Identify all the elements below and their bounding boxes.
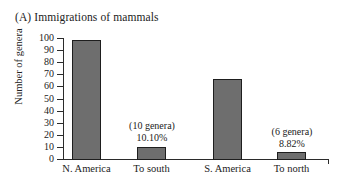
x-axis-category-label: S. America [196,163,259,174]
y-axis-tick-label: 40 [14,106,54,116]
y-axis-tick-mark [57,135,63,136]
y-axis-tick-label: 50 [14,94,54,104]
y-axis-tick-mark [57,74,63,75]
annotation-genera-count: (6 genera) [253,126,331,138]
y-axis-tick-label: 0 [14,154,54,164]
x-axis-category-label: To north [261,163,322,174]
annotation-genera-count: (10 genera) [111,120,193,132]
bar-n-america [72,40,101,160]
y-axis-tick-mark [57,38,63,39]
y-axis-tick-label: 10 [14,142,54,152]
y-axis-tick-label: 70 [14,69,54,79]
bar-to-north [277,152,306,160]
y-axis-line [63,38,64,160]
figure-panel-a: (A) Immigrations of mammals Number of ge… [0,0,351,186]
annotation-percent: 8.82% [253,138,331,150]
bar-to-south [137,147,166,160]
bar-annotation: (6 genera)8.82% [253,126,331,149]
y-axis-tick-label: 100 [14,33,54,43]
x-axis-category-label: To south [121,163,182,174]
bar-annotation: (10 genera)10.10% [111,120,193,143]
y-axis-tick-label: 60 [14,81,54,91]
y-axis-tick-label: 90 [14,45,54,55]
bar-s-america [213,79,242,160]
y-axis-tick-mark [57,111,63,112]
y-axis-tick-label: 20 [14,130,54,140]
y-axis-tick-mark [57,99,63,100]
y-axis-tick-label: 30 [14,118,54,128]
y-axis-tick-mark [57,86,63,87]
y-axis-tick-mark [57,50,63,51]
y-axis-tick-mark [57,159,63,160]
x-axis-category-label: N. America [55,163,118,174]
y-axis-tick-mark [57,62,63,63]
plot-area: 1009080706050403020100N. AmericaTo south… [0,0,351,186]
x-axis-end-tick [328,159,329,164]
annotation-percent: 10.10% [111,132,193,144]
y-axis-tick-label: 80 [14,57,54,67]
y-axis-tick-mark [57,123,63,124]
y-axis-tick-mark [57,147,63,148]
